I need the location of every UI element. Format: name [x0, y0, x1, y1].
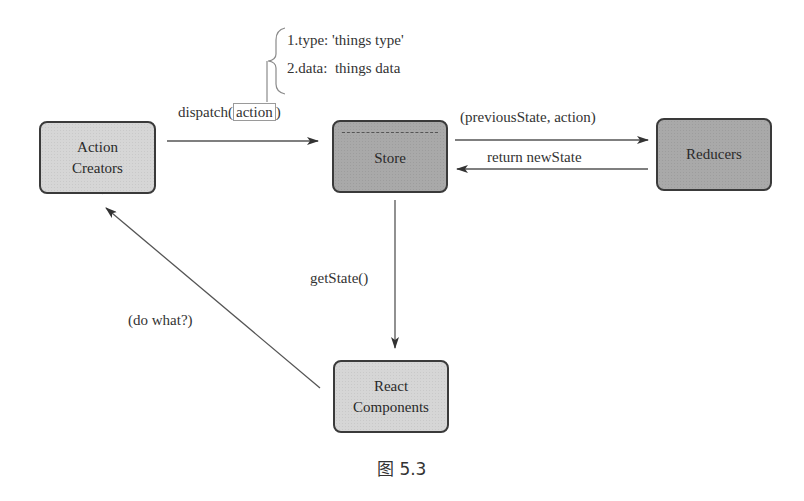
action-creators-line2: Creators: [72, 158, 123, 179]
return-state-label: return newState: [487, 148, 582, 166]
action-type-text: 1.type: 'things type': [287, 32, 404, 48]
dispatch-label: dispatch(action): [178, 103, 281, 121]
reducers-node: Reducers: [656, 118, 772, 191]
to-reducers-label: (previousState, action): [460, 108, 596, 126]
store-label: Store: [374, 148, 406, 169]
do-what-arrow: [106, 208, 320, 388]
action-type-annotation: 1.type: 'things type': [287, 31, 404, 49]
do-what-label: (do what?): [128, 311, 193, 329]
figure-caption: 图 5.3: [377, 455, 426, 480]
redux-flow-diagram: Action Creators Store Reducers React Com…: [0, 0, 804, 501]
brace-icon: [267, 28, 285, 102]
store-dashed-divider: [342, 132, 438, 133]
reducers-label: Reducers: [686, 144, 742, 165]
react-components-line2: Components: [353, 397, 429, 418]
action-data-text: 2.data: things data: [287, 60, 400, 76]
action-creators-line1: Action: [77, 137, 118, 158]
action-arg-box: action: [233, 103, 276, 121]
get-state-label: getState(): [310, 269, 368, 287]
react-components-node: React Components: [333, 360, 449, 433]
dispatch-suffix: ): [276, 104, 281, 120]
store-node: Store: [332, 120, 448, 193]
dispatch-prefix: dispatch(: [178, 104, 233, 120]
react-components-line1: React: [374, 376, 408, 397]
action-creators-node: Action Creators: [39, 121, 156, 194]
action-data-annotation: 2.data: things data: [287, 59, 400, 77]
